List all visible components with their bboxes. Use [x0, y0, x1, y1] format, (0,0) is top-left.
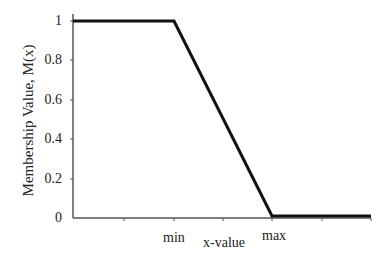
y-tick-0.6: 0.6: [32, 92, 62, 108]
membership-line: [73, 21, 371, 216]
y-tick-0.2: 0.2: [32, 171, 62, 187]
y-tick-1: 1: [32, 13, 62, 29]
y-tick-0: 0: [32, 210, 62, 226]
y-tick-0.8: 0.8: [32, 52, 62, 68]
y-axis-label: Membership Value, M(x): [20, 41, 37, 201]
x-tick-min: min: [163, 230, 185, 246]
x-tick-max: max: [262, 228, 286, 244]
x-axis-label: x-value: [203, 235, 245, 251]
y-tick-0.4: 0.4: [32, 131, 62, 147]
